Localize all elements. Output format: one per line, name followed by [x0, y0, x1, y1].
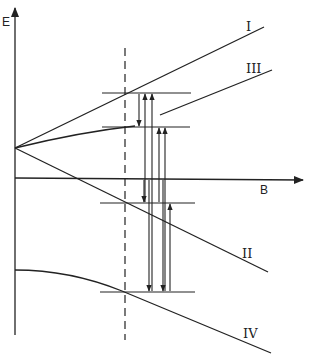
level-III-line	[15, 126, 135, 148]
level-IV-label: IV	[243, 326, 258, 341]
energy-level-diagram: E B I III II IV	[0, 0, 309, 361]
energy-axis-label: E	[2, 15, 10, 29]
level-II-label: II	[242, 246, 252, 261]
level-IV-line	[15, 270, 271, 353]
transition-arrows	[139, 94, 170, 291]
level-III-label: III	[246, 61, 261, 76]
level-I-label: I	[246, 19, 251, 34]
level-markers	[100, 93, 195, 292]
field-axis-label: B	[260, 183, 268, 197]
level-II-line	[15, 148, 268, 272]
level-I-line	[15, 27, 264, 148]
